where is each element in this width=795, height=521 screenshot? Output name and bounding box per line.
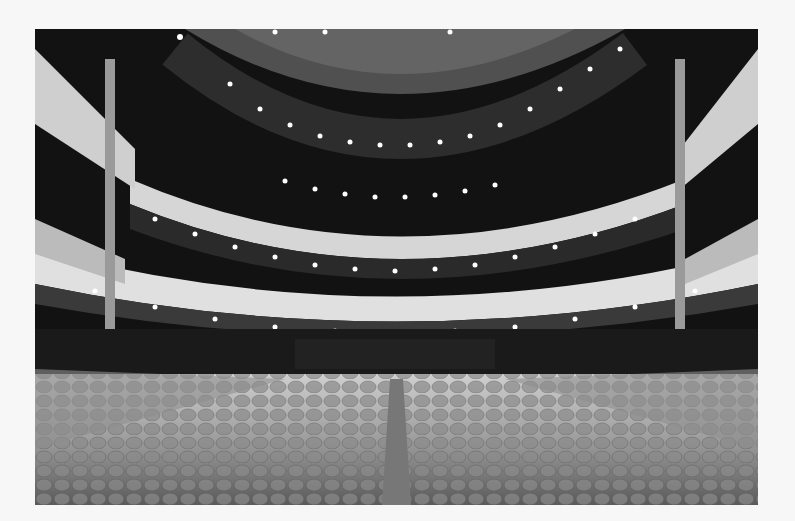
theater-photo [35,29,758,505]
right-column [675,59,685,369]
left-column [105,59,115,369]
theater-illustration [35,29,758,505]
